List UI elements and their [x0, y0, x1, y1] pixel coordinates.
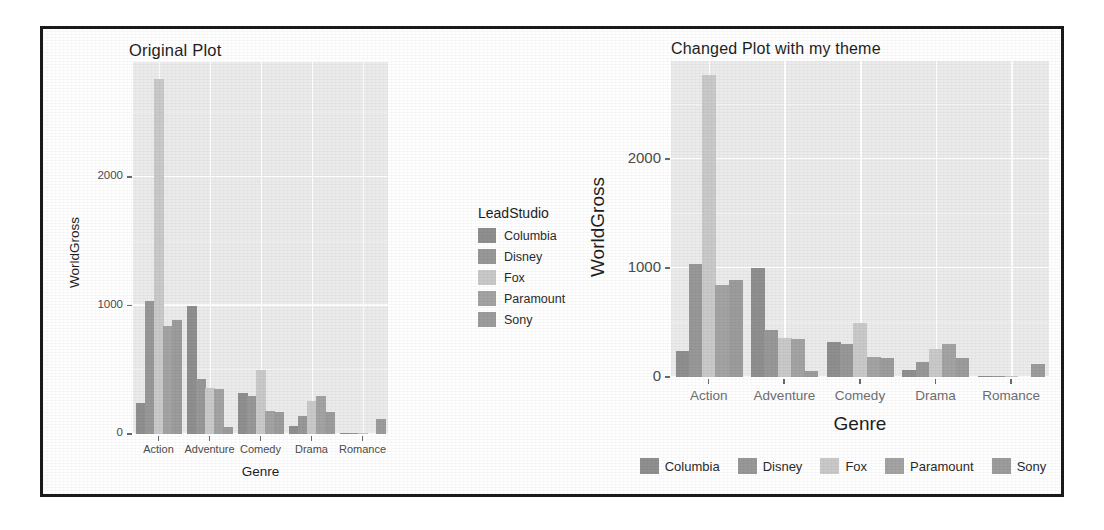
legend-label: Fox: [845, 459, 867, 474]
x-tick-mark: [311, 436, 313, 441]
bar-disney-drama: [916, 362, 930, 377]
legend-swatch-icon: [478, 291, 496, 306]
legend-label: Columbia: [665, 459, 720, 474]
gridline-vertical: [363, 62, 365, 434]
chart-themed-plot: Changed Plot with my theme WorldGross Ge…: [603, 29, 1067, 500]
legend-item-paramount[interactable]: Paramount: [478, 291, 565, 306]
bar-disney-romance: [991, 376, 1005, 377]
bar-fox-romance: [1005, 376, 1019, 377]
legend-item-paramount[interactable]: Paramount: [885, 458, 974, 474]
legend-swatch-icon: [738, 458, 757, 474]
y-tick-mark: [127, 305, 132, 307]
legend-label: Paramount: [910, 459, 974, 474]
legend-label: Sony: [1017, 459, 1047, 474]
x-axis-title-original: Genre: [133, 464, 388, 479]
legend-label: Paramount: [504, 292, 565, 306]
legend-label: Fox: [504, 271, 525, 285]
bar-sony-romance: [376, 419, 386, 434]
legend-swatch-icon: [992, 458, 1011, 474]
y-tick-label: 2000: [601, 149, 661, 166]
gridline-vertical: [1011, 61, 1013, 377]
bar-fox-comedy: [853, 323, 867, 377]
y-tick-label: 1000: [601, 258, 661, 275]
x-tick-mark: [158, 436, 160, 441]
legend-original: LeadStudio ColumbiaDisneyFoxParamountSon…: [478, 205, 565, 333]
bar-sony-comedy: [274, 412, 284, 434]
y-tick-mark: [665, 376, 670, 378]
gridline-vertical: [784, 61, 786, 377]
y-tick-mark: [665, 267, 670, 269]
bar-sony-adventure: [804, 371, 818, 377]
legend-swatch-icon: [640, 458, 659, 474]
bar-sony-romance: [1031, 364, 1045, 377]
bar-sony-drama: [325, 412, 335, 434]
gridline-vertical: [312, 62, 314, 434]
bar-sony-drama: [956, 358, 970, 377]
bar-paramount-action: [715, 285, 729, 377]
chart-title-themed: Changed Plot with my theme: [671, 40, 881, 58]
x-tick-mark: [1010, 379, 1012, 384]
legend-label: Columbia: [504, 229, 557, 243]
legend-title-leadstudio: LeadStudio: [478, 205, 565, 221]
legend-item-columbia[interactable]: Columbia: [478, 228, 565, 243]
y-axis-title-original: WorldGross: [67, 217, 82, 288]
plot-panel-original: [133, 62, 388, 434]
bar-sony-action: [172, 320, 182, 434]
x-tick-label: Romance: [324, 443, 402, 455]
bar-paramount-adventure: [791, 339, 805, 377]
y-tick-mark: [665, 158, 670, 160]
legend-swatch-icon: [478, 249, 496, 264]
bar-paramount-comedy: [867, 357, 881, 377]
bar-paramount-drama: [942, 344, 956, 377]
x-axis-title-themed: Genre: [671, 413, 1049, 435]
bar-fox-adventure: [778, 338, 792, 377]
legend-item-columbia[interactable]: Columbia: [640, 458, 720, 474]
bar-disney-action: [689, 264, 703, 377]
x-tick-mark: [209, 436, 211, 441]
legend-swatch-icon: [478, 270, 496, 285]
bar-sony-comedy: [880, 358, 894, 377]
legend-item-sony[interactable]: Sony: [478, 312, 565, 327]
legend-themed: ColumbiaDisneyFoxParamountSony: [623, 454, 1063, 478]
legend-label: Disney: [763, 459, 803, 474]
x-tick-mark: [935, 379, 937, 384]
y-tick-mark: [127, 176, 132, 178]
legend-item-disney[interactable]: Disney: [478, 249, 565, 264]
legend-swatch-icon: [478, 228, 496, 243]
y-tick-label: 0: [75, 426, 123, 438]
bar-columbia-romance: [978, 376, 992, 377]
legend-item-disney[interactable]: Disney: [738, 458, 803, 474]
x-tick-label: Romance: [963, 388, 1059, 403]
x-tick-mark: [362, 436, 364, 441]
legend-swatch-icon: [478, 312, 496, 327]
bar-fox-romance: [358, 433, 368, 434]
legend-item-fox[interactable]: Fox: [820, 458, 867, 474]
bar-sony-adventure: [223, 427, 233, 434]
gridline-vertical: [210, 62, 212, 434]
x-tick-mark: [260, 436, 262, 441]
x-tick-mark: [859, 379, 861, 384]
bar-columbia-comedy: [827, 342, 841, 377]
y-tick-label: 0: [601, 367, 661, 384]
chart-title-original: Original Plot: [129, 41, 221, 60]
bar-columbia-adventure: [751, 268, 765, 377]
legend-swatch-icon: [820, 458, 839, 474]
gridline-vertical: [936, 61, 938, 377]
bar-fox-drama: [929, 349, 943, 377]
legend-item-fox[interactable]: Fox: [478, 270, 565, 285]
bar-disney-adventure: [764, 330, 778, 377]
y-tick-label: 2000: [75, 169, 123, 181]
bar-disney-comedy: [840, 344, 854, 377]
legend-label: Disney: [504, 250, 542, 264]
bar-fox-action: [702, 75, 716, 377]
x-tick-mark: [708, 379, 710, 384]
bar-columbia-drama: [902, 370, 916, 377]
y-tick-mark: [127, 433, 132, 435]
legend-entry-list: ColumbiaDisneyFoxParamountSony: [478, 228, 565, 327]
scanned-page-frame: Original Plot WorldGross Genre 010002000…: [40, 26, 1064, 497]
legend-swatch-icon: [885, 458, 904, 474]
plot-panel-themed: [671, 61, 1049, 377]
chart-original-plot: Original Plot WorldGross Genre 010002000…: [63, 29, 463, 500]
x-tick-mark: [783, 379, 785, 384]
legend-item-sony[interactable]: Sony: [992, 458, 1047, 474]
